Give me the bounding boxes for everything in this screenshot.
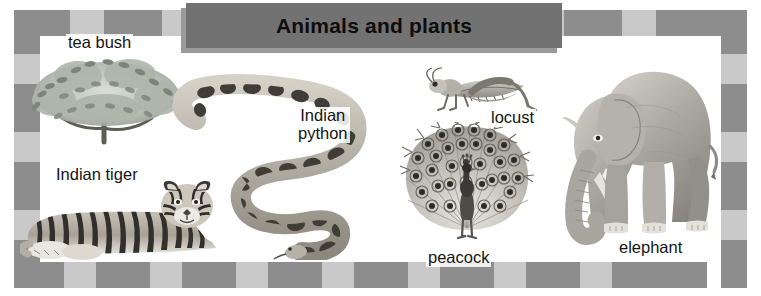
frame-tile xyxy=(721,10,747,54)
frame-tile xyxy=(96,262,150,288)
frame-tile xyxy=(268,262,322,288)
frame-tile xyxy=(721,210,747,240)
frame-tile xyxy=(64,262,96,288)
frame-tile xyxy=(526,262,580,288)
frame-tile xyxy=(14,10,40,54)
animals-and-plants-poster: Animals and plants tea bush Indian tiger… xyxy=(0,0,761,296)
elephant-illustration xyxy=(548,36,720,260)
frame-tile xyxy=(721,54,747,84)
frame-tile xyxy=(612,262,707,288)
label-locust: locust xyxy=(489,109,536,127)
indian-python-illustration xyxy=(170,74,370,260)
frame-tile xyxy=(564,10,622,36)
label-indian-python: Indian python xyxy=(296,107,350,143)
frame-tile xyxy=(182,262,236,288)
frame-tile xyxy=(721,240,747,288)
frame-band-bottom xyxy=(14,262,747,288)
page-title: Animals and plants xyxy=(276,14,472,38)
frame-tile xyxy=(580,262,612,288)
frame-tile xyxy=(322,262,354,288)
peacock-illustration xyxy=(392,122,542,254)
frame-tile xyxy=(150,262,182,288)
frame-tile xyxy=(622,10,656,36)
frame-band-right xyxy=(721,10,747,288)
frame-tile xyxy=(721,132,747,162)
label-elephant: elephant xyxy=(617,239,684,257)
frame-tile xyxy=(721,84,747,132)
label-tea-bush: tea bush xyxy=(66,34,133,52)
frame-tile xyxy=(236,262,268,288)
locust-illustration xyxy=(424,62,540,114)
label-peacock: peacock xyxy=(426,249,491,267)
tea-bush-illustration xyxy=(18,50,193,145)
frame-tile xyxy=(354,262,408,288)
frame-tile xyxy=(721,162,747,210)
label-indian-tiger: Indian tiger xyxy=(54,166,140,184)
title-banner: Animals and plants xyxy=(186,3,562,48)
frame-tile xyxy=(494,262,526,288)
